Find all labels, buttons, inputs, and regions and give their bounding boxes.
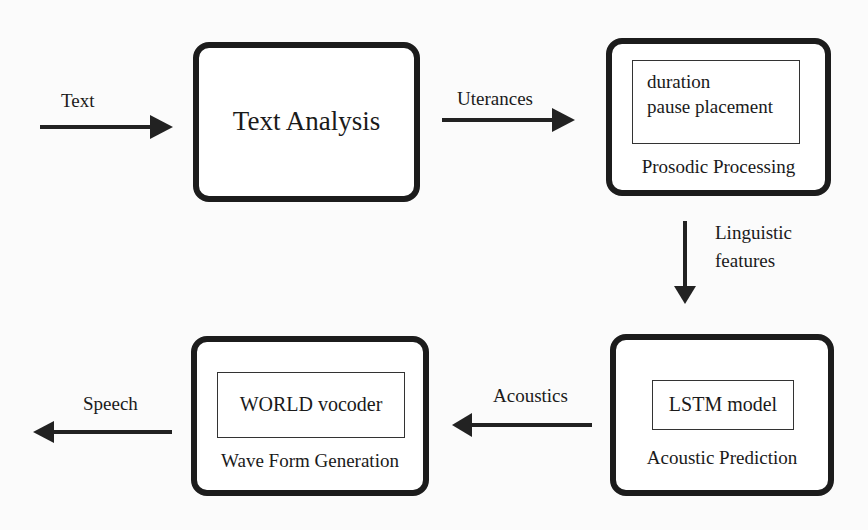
edge-label-linguistic: Linguistic bbox=[715, 222, 792, 244]
node-title: Wave Form Generation bbox=[197, 450, 423, 472]
edge-label-speech: Speech bbox=[83, 393, 138, 415]
edge-label-acoustics: Acoustics bbox=[493, 385, 568, 407]
node-prosodic-processing: duration pause placement Prosodic Proces… bbox=[606, 38, 831, 196]
arrow-text-input bbox=[40, 115, 173, 139]
edge-label-utterances: Uterances bbox=[457, 88, 533, 110]
inner-box-world-vocoder: WORLD vocoder bbox=[217, 372, 405, 438]
node-acoustic-prediction: LSTM model Acoustic Prediction bbox=[610, 334, 834, 496]
edge-label-text: Text bbox=[61, 90, 95, 112]
arrow-acoustics bbox=[452, 413, 592, 437]
arrow-speech bbox=[33, 421, 172, 443]
node-waveform-generation: WORLD vocoder Wave Form Generation bbox=[191, 336, 429, 496]
node-title: Acoustic Prediction bbox=[616, 447, 828, 469]
arrow-utterances bbox=[442, 108, 575, 132]
node-title: Text Analysis bbox=[199, 106, 414, 137]
inner-label-world: WORLD vocoder bbox=[218, 393, 404, 416]
inner-line-duration: duration bbox=[647, 71, 710, 93]
inner-line-pause-placement: pause placement bbox=[647, 96, 773, 118]
edge-label-features: features bbox=[715, 250, 775, 272]
arrow-linguistic-features bbox=[674, 221, 696, 304]
node-title: Prosodic Processing bbox=[612, 156, 825, 178]
inner-box-lstm: LSTM model bbox=[652, 380, 794, 430]
inner-label-lstm: LSTM model bbox=[653, 393, 793, 416]
node-text-analysis: Text Analysis bbox=[193, 42, 420, 202]
inner-box-prosodic-features: duration pause placement bbox=[632, 60, 800, 144]
